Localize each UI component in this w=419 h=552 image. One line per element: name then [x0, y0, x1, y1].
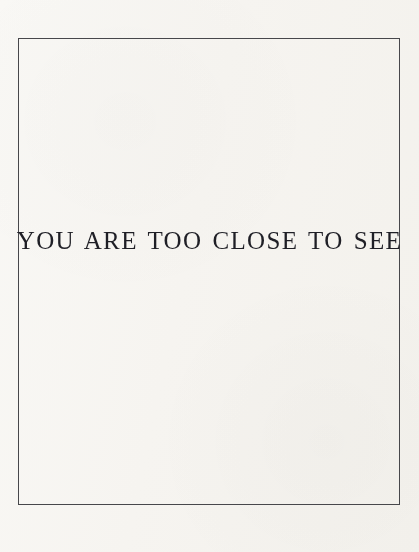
artwork-page: YOU ARE TOO CLOSE TO SEE [0, 0, 419, 552]
artwork-inscription-text: YOU ARE TOO CLOSE TO SEE [0, 228, 419, 254]
artwork-border-frame [18, 38, 400, 505]
